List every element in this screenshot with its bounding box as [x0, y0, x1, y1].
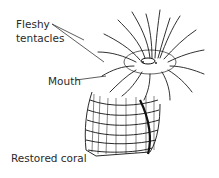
label-fleshy: Fleshy: [16, 18, 50, 30]
label-tentacles: tentacles: [16, 32, 64, 44]
label-restored-coral: Restored coral: [11, 152, 87, 164]
label-mouth: Mouth: [48, 75, 81, 87]
coral-stalk: [85, 92, 160, 156]
